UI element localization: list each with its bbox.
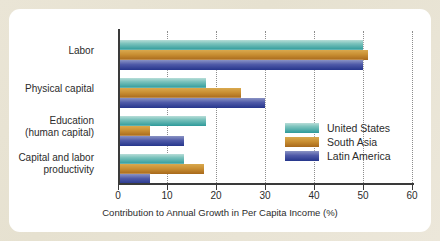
bar-productivity-south-asia <box>118 164 204 174</box>
legend-swatch-united-states <box>285 123 319 133</box>
chart-figure: Labor Physical capital Education (human … <box>0 0 440 241</box>
legend-label-latin-america: Latin America <box>327 150 391 162</box>
legend-entry-south-asia: South Asia <box>285 135 391 148</box>
gridline-60 <box>412 31 413 183</box>
bar-physical-capital-united-states <box>118 78 206 88</box>
bar-physical-capital-latin-america <box>118 98 265 108</box>
x-tick-label-0: 0 <box>98 190 138 201</box>
category-label-line: Physical capital <box>0 83 94 95</box>
legend-entry-latin-america: Latin America <box>285 149 391 162</box>
x-tick-label-40: 40 <box>294 190 334 201</box>
legend-entry-united-states: United States <box>285 121 391 134</box>
bar-productivity-united-states <box>118 154 184 164</box>
category-label-line: Education <box>0 115 94 127</box>
category-label-line: productivity <box>0 164 94 176</box>
bar-education-south-asia <box>118 126 150 136</box>
y-axis-line <box>118 29 120 185</box>
bar-education-united-states <box>118 116 206 126</box>
x-tick-label-50: 50 <box>343 190 383 201</box>
x-tick-label-60: 60 <box>392 190 432 201</box>
chart-legend: United States South Asia Latin America <box>285 121 391 163</box>
x-tick-label-20: 20 <box>196 190 236 201</box>
x-axis-title: Contribution to Annual Growth in Per Cap… <box>9 207 431 218</box>
category-label-line: (human capital) <box>0 127 94 139</box>
bar-labor-united-states <box>118 40 363 50</box>
legend-label-united-states: United States <box>327 122 390 134</box>
legend-swatch-latin-america <box>285 151 319 161</box>
x-axis-line <box>118 183 414 185</box>
bar-education-latin-america <box>118 136 184 146</box>
bar-labor-latin-america <box>118 60 363 70</box>
legend-label-south-asia: South Asia <box>327 136 377 148</box>
x-tick-label-10: 10 <box>147 190 187 201</box>
x-tick-label-30: 30 <box>245 190 285 201</box>
category-label-education: Education (human capital) <box>0 115 94 138</box>
chart-panel: Labor Physical capital Education (human … <box>9 9 431 232</box>
legend-swatch-south-asia <box>285 137 319 147</box>
category-label-capital-labor-productivity: Capital and labor productivity <box>0 152 94 175</box>
category-label-labor: Labor <box>0 45 94 57</box>
category-label-line: Capital and labor <box>0 152 94 164</box>
bar-labor-south-asia <box>118 50 368 60</box>
category-label-physical-capital: Physical capital <box>0 83 94 95</box>
bar-physical-capital-south-asia <box>118 88 241 98</box>
category-label-line: Labor <box>0 45 94 57</box>
